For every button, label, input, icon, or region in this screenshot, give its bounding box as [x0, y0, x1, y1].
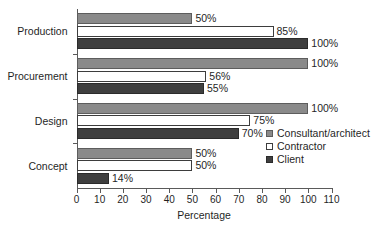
bar-procurement-2	[77, 83, 205, 94]
legend-swatch-icon	[266, 130, 273, 137]
bar-procurement-1	[77, 71, 207, 82]
bar-value-label: 85%	[277, 26, 298, 37]
x-axis-tick	[77, 189, 78, 193]
x-axis-tick	[216, 189, 217, 193]
x-axis-line	[77, 188, 333, 189]
category-label-concept: Concept	[0, 161, 73, 172]
bar-value-label: 50%	[195, 148, 216, 159]
bar-concept-2	[77, 173, 109, 184]
x-axis-title: Percentage	[77, 210, 332, 221]
bar-value-label: 50%	[195, 160, 216, 171]
category-label-production: Production	[0, 26, 73, 37]
x-axis-tick	[192, 189, 193, 193]
bar-value-label: 100%	[311, 38, 338, 49]
bar-procurement-0	[77, 58, 309, 69]
bar-value-label: 55%	[207, 83, 228, 94]
bar-concept-1	[77, 160, 193, 171]
bar-value-label: 70%	[242, 128, 263, 139]
bar-production-1	[77, 26, 274, 37]
bar-value-label: 14%	[112, 173, 133, 184]
bar-value-label: 50%	[195, 13, 216, 24]
x-axis-tick	[332, 189, 333, 193]
bar-design-2	[77, 128, 239, 139]
y-axis-tick	[73, 54, 77, 55]
bar-production-0	[77, 13, 193, 24]
bar-value-label: 100%	[311, 58, 338, 69]
bar-production-2	[77, 38, 309, 49]
x-axis-tick	[169, 189, 170, 193]
y-axis-tick	[73, 143, 77, 144]
legend-label: Contractor	[277, 140, 326, 153]
x-axis-tick	[239, 189, 240, 193]
bar-value-label: 75%	[253, 115, 274, 126]
legend-label: Client	[277, 153, 304, 166]
x-axis-tick	[146, 189, 147, 193]
bar-design-1	[77, 115, 251, 126]
bar-design-0	[77, 103, 309, 114]
x-axis-tick	[308, 189, 309, 193]
x-axis-tick	[123, 189, 124, 193]
bar-concept-0	[77, 148, 193, 159]
x-axis-tick	[262, 189, 263, 193]
bar-value-label: 56%	[209, 71, 230, 82]
bar-value-label: 100%	[311, 103, 338, 114]
category-label-procurement: Procurement	[0, 71, 73, 82]
y-axis-tick	[73, 99, 77, 100]
bar-chart: 0102030405060708090100110Production50%85…	[0, 0, 389, 229]
x-axis-tick	[100, 189, 101, 193]
x-axis-tick-label: 110	[318, 195, 346, 205]
category-label-design: Design	[0, 116, 73, 127]
legend-swatch-icon	[266, 143, 273, 150]
legend-label: Consultant/architect	[277, 127, 370, 140]
x-axis-tick	[285, 189, 286, 193]
legend-swatch-icon	[266, 156, 273, 163]
